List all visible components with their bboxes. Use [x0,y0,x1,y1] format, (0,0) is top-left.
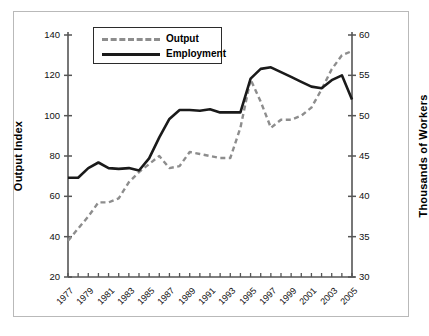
left-tick-label: 40 [32,231,60,242]
right-tick-label: 30 [359,271,387,282]
left-tick-label: 140 [32,29,60,40]
legend-item-employment: Employment [94,47,223,61]
legend-key-solid [102,53,160,56]
left-tick-label: 60 [32,190,60,201]
legend-item-output: Output [94,32,223,46]
legend-label-output: Output [166,32,199,46]
right-tick-label: 40 [359,190,387,201]
right-tick-label: 50 [359,110,387,121]
left-tick-label: 80 [32,150,60,161]
legend-key-dashed [102,38,160,41]
data-series [68,51,352,241]
axis-lines [68,32,355,277]
series-line-employment [68,67,352,178]
left-tick-label: 100 [32,110,60,121]
left-tick-label: 120 [32,69,60,80]
right-tick-label: 45 [359,150,387,161]
right-tick-label: 35 [359,231,387,242]
left-tick-label: 20 [32,271,60,282]
right-axis-title: Thousands of Workers [417,66,429,246]
left-axis-title: Output Index [12,96,24,216]
axis-ticks [64,35,356,277]
series-line-output [68,51,352,241]
legend-label-employment: Employment [166,47,226,61]
right-tick-label: 55 [359,69,387,80]
chart-legend: Output Employment [93,27,222,64]
right-tick-label: 60 [359,29,387,40]
